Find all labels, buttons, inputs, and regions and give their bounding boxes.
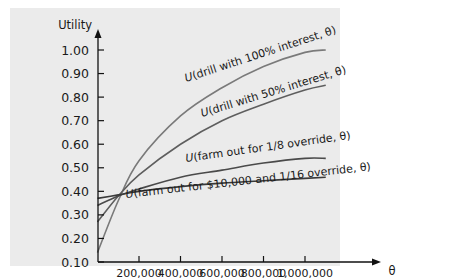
label-farm-1-8: U(farm out for 1/8 override, θ)	[185, 129, 352, 165]
y-tick-label: 1.00	[61, 43, 89, 58]
y-tick-label: 0.50	[61, 160, 89, 175]
y-tick-label: 0.40	[61, 184, 89, 199]
utility-chart: 1.000.900.800.700.600.500.400.300.200.10…	[0, 0, 449, 279]
y-tick-label: 0.70	[61, 113, 89, 128]
y-tick-label: 0.20	[61, 231, 89, 246]
y-tick-label: 0.90	[61, 66, 89, 81]
y-axis-title: Utility	[58, 18, 92, 32]
y-tick-label: 0.30	[61, 207, 89, 222]
y-tick-label: 0.60	[61, 137, 89, 152]
x-axis-title: θ	[388, 264, 395, 278]
x-tick-label: 400,000	[158, 267, 204, 279]
x-ticks: 200,000400,000600,000800,0001,000,000	[116, 256, 333, 279]
x-axis-arrow-icon	[372, 259, 381, 266]
y-axis-arrow-icon	[95, 29, 102, 38]
x-tick-label: 600,000	[199, 267, 245, 279]
x-tick-label: 1,000,000	[277, 267, 333, 279]
y-tick-label: 0.80	[61, 90, 89, 105]
x-tick-label: 200,000	[116, 267, 162, 279]
y-tick-label: 0.10	[61, 255, 89, 270]
